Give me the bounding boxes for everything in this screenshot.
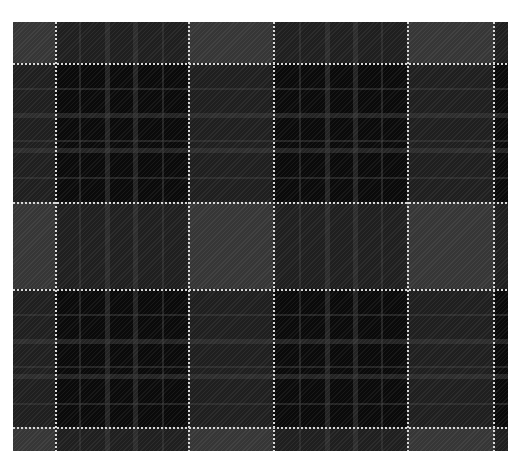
overcheck-lines: [13, 22, 508, 451]
tartan-fabric: [13, 22, 508, 451]
white-overcheck-vertical: [493, 22, 495, 451]
white-overcheck-horizontal: [13, 289, 508, 291]
white-overcheck-vertical: [407, 22, 409, 451]
white-overcheck-horizontal: [13, 202, 508, 204]
white-overcheck-vertical: [273, 22, 275, 451]
white-overcheck-vertical: [188, 22, 190, 451]
white-overcheck-vertical: [55, 22, 57, 451]
caption-text: [14, 0, 508, 8]
white-overcheck-horizontal: [13, 63, 508, 65]
white-overcheck-horizontal: [13, 427, 508, 429]
